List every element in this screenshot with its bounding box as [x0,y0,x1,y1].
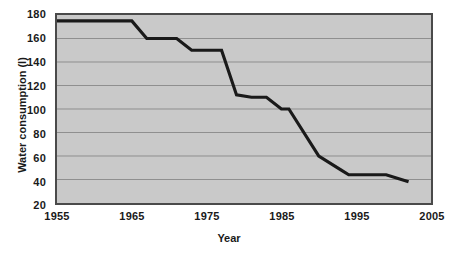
x-tick-label: 1995 [344,210,369,223]
x-tick-label: 1975 [194,210,219,223]
x-tick-label: 2005 [419,210,444,223]
plot-area [55,13,433,205]
y-tick-label: 20 [33,200,46,211]
y-tick-label: 60 [33,153,46,164]
x-tick-label: 1985 [269,210,294,223]
y-tick-label: 140 [27,57,46,68]
x-tick-label: 1955 [44,210,69,223]
y-tick-label: 100 [27,105,46,116]
y-tick-label: 160 [27,33,46,44]
plot-svg [57,15,431,203]
y-tick-label: 40 [33,177,46,188]
y-tick-label: 120 [27,81,46,92]
x-tick-label: 1965 [119,210,144,223]
y-tick-label: 180 [27,9,46,20]
data-series-line [57,21,409,182]
x-axis-title: Year [0,232,458,244]
gridlines [57,39,431,180]
x-axis-tick-labels: 1955 1965 1975 1985 1995 2005 [0,210,458,226]
chart-container: 180 160 140 120 100 80 60 40 20 Water co… [0,0,458,253]
y-axis-title: Water consumption (l) [16,20,28,210]
y-tick-label: 80 [33,129,46,140]
